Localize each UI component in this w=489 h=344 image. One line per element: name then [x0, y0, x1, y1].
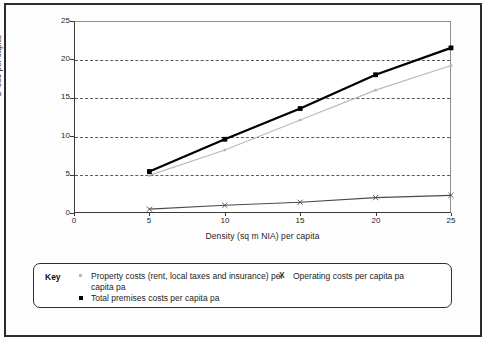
legend-entry-operating-costs: X Operating costs per capita pa	[293, 271, 468, 282]
data-point-square	[147, 169, 152, 174]
chart-legend: Key Property costs (rent, local taxes an…	[33, 263, 452, 308]
legend-entry-total-premises-costs: Total premises costs per capita pa	[91, 293, 301, 304]
data-point-square	[222, 137, 227, 142]
data-point-dot	[374, 89, 377, 92]
legend-dot-marker-icon	[79, 274, 82, 277]
legend-x-marker-icon: X	[279, 270, 285, 280]
line-chart: £ '000 per capita 25 20 15 10 5 0 0 5 10…	[0, 0, 489, 260]
legend-label-operating-costs: Operating costs per capita pa	[293, 271, 468, 282]
legend-label-total-premises-costs: Total premises costs per capita pa	[91, 293, 301, 304]
screenshot-page: £ '000 per capita 25 20 15 10 5 0 0 5 10…	[0, 0, 489, 344]
legend-label-property-costs: Property costs (rent, local taxes and in…	[91, 271, 291, 292]
x-axis-title: Density (sq m NIA) per capita	[74, 231, 451, 241]
data-series-layer	[0, 0, 489, 260]
data-point-square	[449, 45, 454, 50]
data-point-dot	[224, 149, 227, 152]
data-point-dot	[299, 119, 302, 122]
legend-square-marker-icon	[79, 296, 83, 300]
data-point-square	[373, 72, 378, 77]
data-point-dot	[450, 64, 453, 67]
data-point-square	[298, 106, 303, 111]
legend-key-label: Key	[45, 272, 61, 282]
legend-entry-property-costs: Property costs (rent, local taxes and in…	[91, 271, 291, 292]
data-point-dot	[148, 174, 151, 177]
